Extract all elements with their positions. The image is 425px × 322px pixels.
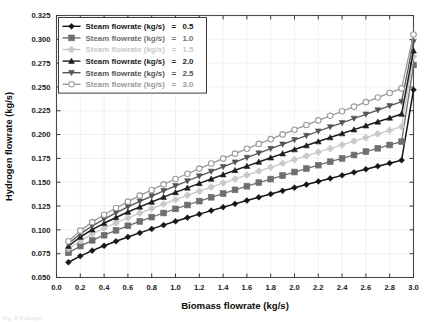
marker-square-icon	[339, 156, 345, 162]
legend-item-value: 1.0	[183, 34, 195, 43]
marker-circle-open-icon	[69, 82, 75, 88]
legend-item-label: Steam flowrate (kg/s)	[86, 69, 166, 78]
y-axis-title: Hydrogen flowrate (kg/s)	[4, 92, 14, 201]
tick-label-y: 0.325	[31, 11, 51, 20]
marker-circle-open-icon	[197, 166, 203, 172]
tick-label-x: 2.6	[361, 283, 372, 292]
legend-item-label: Steam flowrate (kg/s)	[86, 45, 166, 54]
tick-label-y: 0.075	[31, 249, 51, 258]
marker-square-icon	[232, 187, 238, 193]
tick-label-x: 0.4	[99, 283, 110, 292]
marker-square-icon	[208, 194, 214, 200]
tick-label-y: 0.100	[31, 226, 50, 235]
marker-circle-open-icon	[137, 193, 143, 199]
marker-square-icon	[399, 139, 405, 145]
marker-square-icon	[315, 162, 321, 168]
marker-square-icon	[113, 227, 119, 233]
marker-square-icon	[351, 152, 357, 158]
marker-square-icon	[196, 198, 202, 204]
tick-label-y: 0.200	[31, 130, 50, 139]
tick-label-y: 0.300	[31, 35, 50, 44]
tick-label-x: 0.0	[51, 283, 62, 292]
legend-item-value: 3.0	[183, 80, 195, 89]
marker-square-icon	[161, 210, 167, 216]
marker-circle-open-icon	[89, 219, 95, 225]
marker-square-icon	[173, 206, 179, 212]
marker-circle-open-icon	[66, 239, 72, 245]
tick-label-x: 0.2	[75, 283, 86, 292]
tick-label-x: 3.0	[408, 283, 419, 292]
marker-circle-open-icon	[387, 90, 393, 96]
tick-label-x: 0.8	[146, 283, 157, 292]
marker-square-icon	[256, 180, 262, 186]
marker-circle-open-icon	[185, 171, 191, 177]
tick-label-x: 2.8	[384, 283, 395, 292]
marker-circle-open-icon	[316, 118, 322, 124]
marker-square-icon	[69, 35, 75, 41]
tick-label-y: 0.250	[31, 83, 50, 92]
marker-square-icon	[137, 218, 143, 224]
marker-circle-open-icon	[244, 146, 250, 152]
legend-item-equals: =	[172, 69, 177, 78]
marker-square-icon	[125, 223, 131, 229]
marker-square-icon	[280, 173, 286, 179]
marker-square-icon	[327, 159, 333, 165]
marker-circle-open-icon	[149, 187, 155, 193]
marker-circle-open-icon	[327, 113, 333, 119]
marker-square-icon	[185, 202, 191, 208]
chart-canvas: 0.00.20.40.60.81.01.21.41.61.82.02.22.42…	[0, 0, 425, 322]
tick-label-y: 0.225	[31, 106, 51, 115]
marker-square-icon	[244, 183, 250, 189]
tick-label-y: 0.175	[31, 154, 51, 163]
legend-item-label: Steam flowrate (kg/s)	[86, 34, 166, 43]
x-axis-title: Biomass flowrate (kg/s)	[181, 300, 289, 311]
legend-item-equals: =	[172, 80, 177, 89]
tick-label-x: 2.4	[337, 283, 348, 292]
legend-item-value: 2.0	[183, 57, 195, 66]
marker-circle-open-icon	[101, 212, 107, 218]
tick-label-x: 2.0	[289, 283, 300, 292]
tick-label-y: 0.050	[31, 273, 50, 282]
marker-square-icon	[149, 214, 155, 220]
marker-square-icon	[89, 237, 95, 243]
marker-circle-open-icon	[351, 104, 357, 110]
tick-label-x: 2.2	[313, 283, 324, 292]
figure-caption-fragment: Fig. 8 Hydrogen	[3, 315, 43, 321]
tick-label-x: 1.0	[170, 283, 181, 292]
tick-label-y: 0.275	[31, 59, 51, 68]
legend-item-value: 0.5	[183, 22, 195, 31]
marker-circle-open-icon	[208, 161, 214, 167]
marker-circle-open-icon	[363, 99, 369, 105]
legend-item-label: Steam flowrate (kg/s)	[86, 80, 166, 89]
legend-item-equals: =	[172, 22, 177, 31]
marker-circle-open-icon	[292, 127, 298, 133]
marker-circle-open-icon	[304, 122, 310, 128]
marker-square-icon	[292, 169, 298, 175]
legend-item-equals: =	[172, 34, 177, 43]
legend-item-value: 1.5	[183, 45, 195, 54]
legend-item-equals: =	[172, 45, 177, 54]
tick-label-x: 1.6	[242, 283, 253, 292]
legend-item-equals: =	[172, 57, 177, 66]
legend-item-label: Steam flowrate (kg/s)	[86, 57, 166, 66]
marker-square-icon	[77, 243, 83, 249]
marker-circle-open-icon	[220, 156, 226, 162]
marker-square-icon	[268, 176, 274, 182]
marker-square-icon	[220, 191, 226, 197]
marker-circle-open-icon	[173, 176, 179, 182]
figure-container: 0.00.20.40.60.81.01.21.41.61.82.02.22.42…	[0, 0, 425, 322]
marker-circle-open-icon	[339, 108, 345, 114]
legend-item-value: 2.5	[183, 69, 195, 78]
marker-circle-open-icon	[268, 136, 274, 142]
marker-circle-open-icon	[375, 95, 381, 101]
marker-circle-open-icon	[399, 86, 405, 92]
tick-label-x: 1.4	[218, 283, 229, 292]
marker-circle-open-icon	[411, 32, 417, 38]
tick-label-x: 0.6	[123, 283, 134, 292]
marker-circle-open-icon	[256, 141, 262, 147]
marker-circle-open-icon	[113, 205, 119, 211]
marker-square-icon	[387, 142, 393, 148]
marker-circle-open-icon	[125, 199, 131, 205]
tick-label-y: 0.125	[31, 202, 51, 211]
marker-square-icon	[101, 232, 107, 238]
